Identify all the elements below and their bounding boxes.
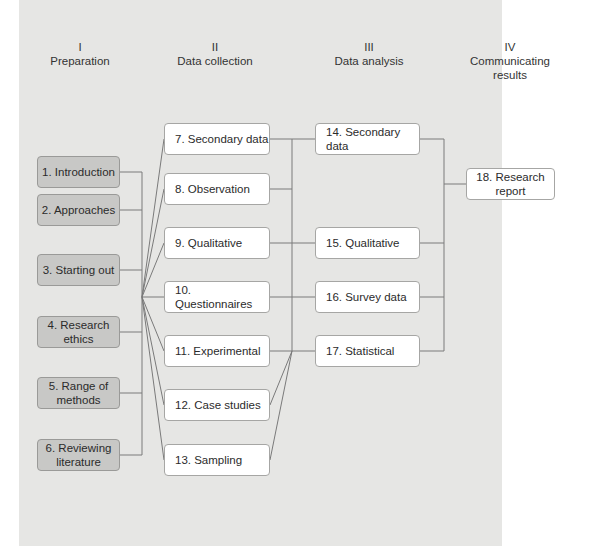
node-questionnaires: 10. Questionnaires [164, 281, 270, 313]
node-secondary-data-analysis: 14. Secondary data [315, 123, 420, 155]
node-statistical: 17. Statistical [315, 335, 420, 367]
node-reviewing-literature: 6. Reviewing literature [37, 439, 120, 471]
node-starting-out: 3. Starting out [37, 254, 120, 286]
node-case-studies: 12. Case studies [164, 389, 270, 421]
node-qualitative-collection: 9. Qualitative [164, 227, 270, 259]
node-introduction: 1. Introduction [37, 156, 120, 188]
node-qualitative-analysis: 15. Qualitative [315, 227, 420, 259]
node-survey-data: 16. Survey data [315, 281, 420, 313]
node-research-ethics: 4. Research ethics [37, 316, 120, 348]
node-approaches: 2. Approaches [37, 194, 120, 226]
node-research-report: 18. Research report [466, 168, 555, 200]
node-sampling: 13. Sampling [164, 444, 270, 476]
node-range-of-methods: 5. Range of methods [37, 377, 120, 409]
node-experimental: 11. Experimental [164, 335, 270, 367]
node-observation: 8. Observation [164, 173, 270, 205]
node-secondary-data-collection: 7. Secondary data [164, 123, 270, 155]
